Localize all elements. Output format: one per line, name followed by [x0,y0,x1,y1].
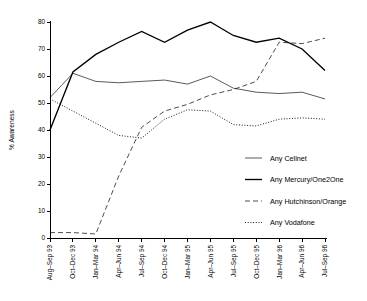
x-axis-tick-label: Jan–Mar 95 [184,245,191,279]
x-axis-tick-label: Jul–Sep 95 [230,245,238,277]
legend-label: Any Vodafone [270,218,315,227]
x-axis-tick-label: Oct–Dec 94 [161,245,168,279]
series-line-any-mercury-one2one [50,22,325,130]
line-chart: 01020304050607080 Aug–Sep 93Oct–Dec 93Ja… [0,0,367,301]
y-axis-tick-label: 70 [38,45,46,52]
x-axis-tick-label: Jan–Mar 96 [276,245,283,279]
series-line-any-cellnet [50,73,325,99]
chart-canvas: 01020304050607080 Aug–Sep 93Oct–Dec 93Ja… [0,0,367,301]
x-axis-tick-label: Apr–Jun 94 [115,245,123,278]
y-axis-tick-label: 80 [38,18,46,25]
legend-label: Any Cellnet [270,154,307,163]
y-axis-tick-label: 60 [38,72,46,79]
x-axis-tick-label: Jul–Sep 94 [138,245,146,277]
y-axis-tick-label: 30 [38,153,46,160]
y-axis-tick-label: 40 [38,126,46,133]
y-axis-title-text: % Awareness [8,109,15,150]
x-axis-tick-label: Oct–Dec 95 [253,245,260,279]
y-axis-tick-label: 20 [38,180,46,187]
chart-legend: Any CellnetAny Mercury/One2OneAny Hutchi… [245,154,346,228]
y-axis-tick-label: 0 [41,234,45,241]
x-axis: Aug–Sep 93Oct–Dec 93Jan–Mar 94Apr–Jun 94… [46,238,329,280]
x-axis-tick-label: Apr–Jun 95 [207,245,215,278]
x-axis-tick-label: Oct–Dec 93 [69,245,76,279]
y-axis-title: % Awareness [8,109,15,150]
x-axis-tick-label: Aug–Sep 93 [46,245,54,281]
x-axis-tick-label: Apr–Jun 96 [298,245,306,278]
legend-label: Any Mercury/One2One [270,175,344,184]
y-axis-tick-label: 10 [38,207,46,214]
y-axis-tick-label: 50 [38,99,46,106]
x-axis-tick-label: Jul–Sep 96 [321,245,329,277]
series-line-any-vodafone [50,99,325,138]
y-axis: 01020304050607080 [38,18,50,241]
legend-label: Any Hutchinson/Orange [270,197,346,206]
x-axis-tick-label: Jan–Mar 94 [92,245,99,279]
